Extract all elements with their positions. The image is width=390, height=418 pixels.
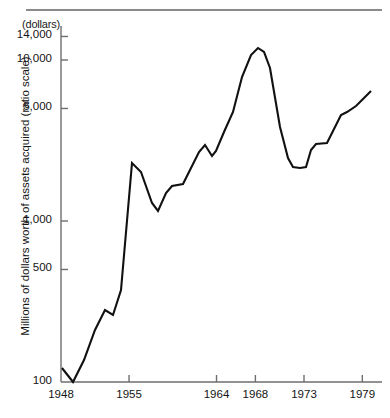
chart-plot-area bbox=[0, 0, 390, 418]
x-axis-tick-label: 1955 bbox=[106, 388, 152, 400]
y-axis-tick-label: 10,000 bbox=[0, 52, 52, 64]
y-axis-tick-label: 100 bbox=[0, 374, 52, 386]
y-axis-tick-label: 500 bbox=[0, 261, 52, 273]
y-axis-tick-label: 14,000 bbox=[0, 28, 52, 40]
x-axis-ticks bbox=[129, 375, 362, 382]
x-axis-tick-label: 1968 bbox=[232, 388, 278, 400]
x-axis-tick-label: 1973 bbox=[281, 388, 327, 400]
x-axis-tick-label: 1979 bbox=[339, 388, 385, 400]
y-axis-tick-label: 1,000 bbox=[0, 213, 52, 225]
data-series-line bbox=[62, 48, 371, 382]
y-axis-tick-label: 5,000 bbox=[0, 100, 52, 112]
x-axis-tick-label: 1948 bbox=[38, 388, 84, 400]
chart-figure: (dollars) Millions of dollars worth of a… bbox=[0, 0, 390, 418]
y-axis-ticks bbox=[61, 36, 68, 269]
